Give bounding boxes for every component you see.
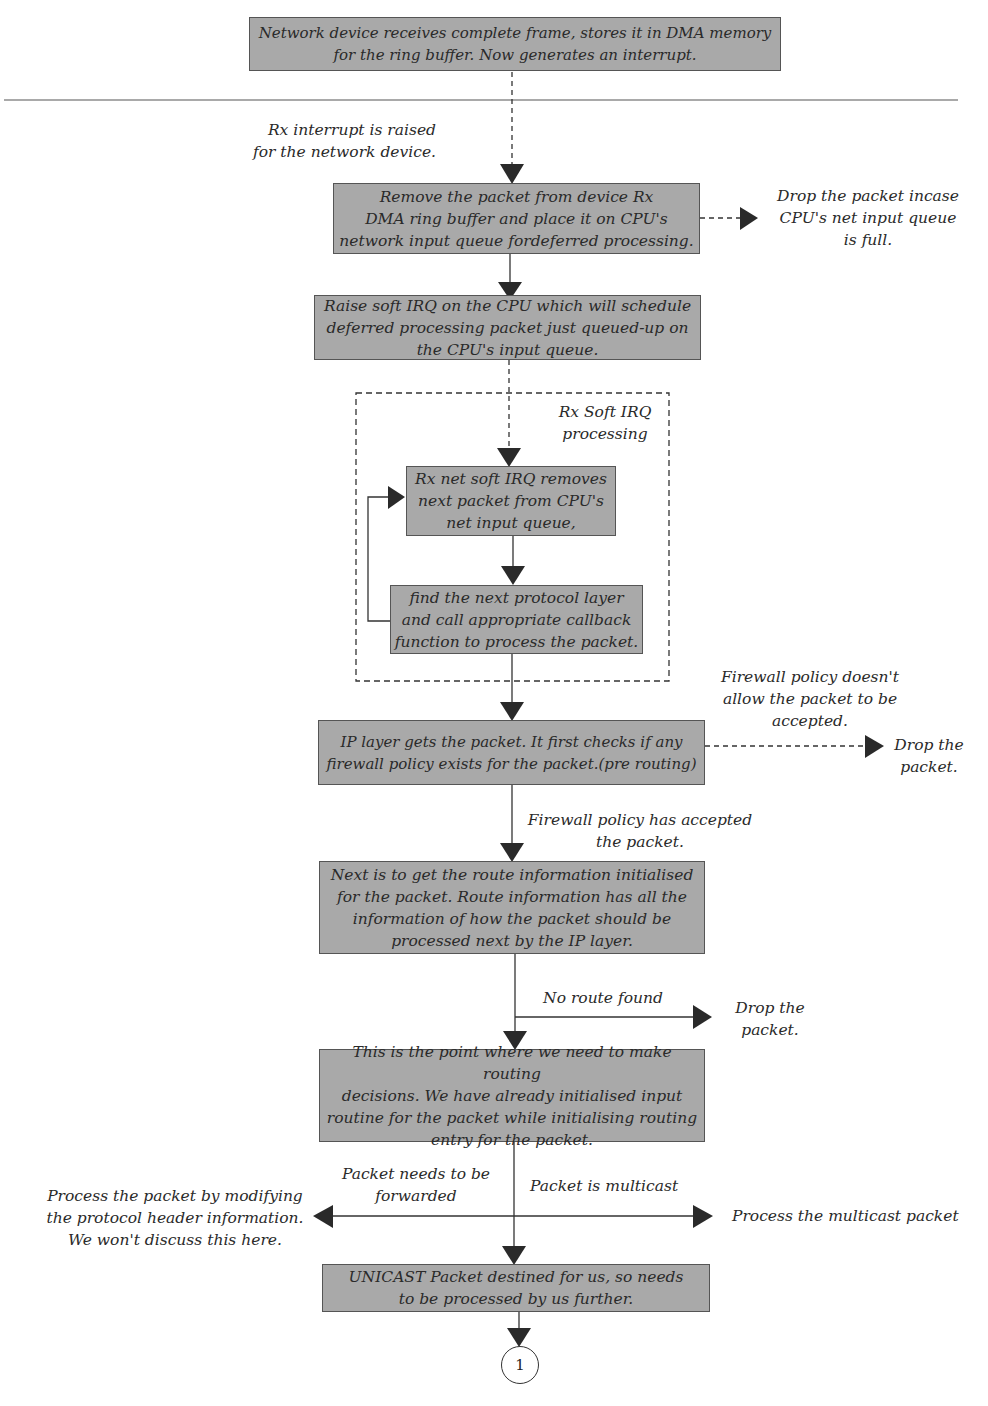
label-firewall-accepted: Firewall policy has accepted the packet. — [515, 809, 765, 853]
offpage-connector: 1 — [501, 1346, 539, 1384]
label-forward-action: Process the packet by modifying the prot… — [30, 1185, 320, 1251]
node-frame-received: Network device receives complete frame, … — [249, 17, 781, 71]
label-no-route: No route found — [528, 987, 678, 1009]
node-find-protocol: find the next protocol layer and call ap… — [390, 585, 643, 654]
flowchart-canvas: Network device receives complete frame, … — [0, 0, 988, 1406]
label-softirq-group: Rx Soft IRQ processing — [545, 401, 665, 445]
node-route-info: Next is to get the route information ini… — [319, 861, 705, 954]
label-is-multicast: Packet is multicast — [530, 1175, 730, 1197]
node-ip-layer-firewall: IP layer gets the packet. It first check… — [318, 720, 705, 785]
label-drop-queue-full: Drop the packet incase CPU's net input q… — [768, 185, 968, 251]
label-drop-firewall: Drop the packet. — [880, 734, 978, 778]
node-raise-softirq: Raise soft IRQ on the CPU which will sch… — [314, 295, 701, 360]
label-firewall-denied: Firewall policy doesn't allow the packet… — [700, 666, 920, 732]
node-routing-decision: This is the point where we need to make … — [319, 1049, 705, 1142]
node-softirq-dequeue: Rx net soft IRQ removes next packet from… — [406, 466, 616, 536]
node-remove-from-ring: Remove the packet from device Rx DMA rin… — [333, 183, 700, 254]
node-unicast-destined: UNICAST Packet destined for us, so needs… — [322, 1264, 710, 1312]
label-needs-forward: Packet needs to be forwarded — [326, 1163, 506, 1207]
label-multicast-action: Process the multicast packet — [732, 1205, 982, 1227]
label-drop-no-route: Drop the packet. — [715, 997, 825, 1041]
label-rx-interrupt: Rx interrupt is raised for the network d… — [240, 119, 436, 163]
